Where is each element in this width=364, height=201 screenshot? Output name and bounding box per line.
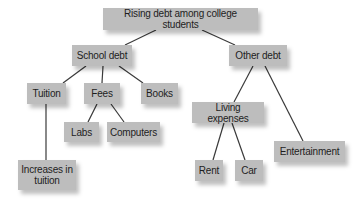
node-labs: Labs (64, 122, 99, 142)
node-other-debt: Other debt (229, 45, 287, 66)
node-rent: Rent (195, 160, 223, 181)
edge-school-debt-tuition (63, 66, 86, 83)
node-computers: Computers (107, 122, 160, 142)
node-root-topic: Rising debt among college students (103, 8, 258, 30)
edge-other-debt-living-expenses (234, 66, 253, 102)
edge-fees-labs (88, 104, 97, 122)
node-fees: Fees (84, 83, 120, 104)
node-books: Books (141, 83, 178, 104)
node-tuition: Tuition (27, 83, 66, 104)
edge-fees-computers (111, 104, 124, 122)
edge-school-debt-fees (102, 66, 103, 83)
node-living-expenses: Living expenses (192, 102, 264, 123)
node-increases-in-tuition: Increases in tuition (18, 160, 76, 190)
node-car: Car (235, 160, 263, 181)
edge-living-expenses-rent (213, 123, 224, 160)
edge-root-other-debt (202, 30, 235, 45)
node-entertainment: Entertainment (274, 141, 345, 162)
edge-root-school-debt (125, 30, 156, 45)
concept-tree-diagram: Rising debt among college students Schoo… (0, 0, 364, 201)
edge-school-debt-books (119, 66, 143, 83)
node-school-debt: School debt (72, 45, 132, 66)
edge-other-debt-entertainment (265, 66, 303, 141)
edge-living-expenses-car (232, 123, 245, 160)
